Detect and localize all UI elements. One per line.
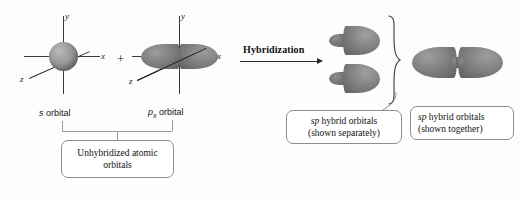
sp-separate-box-text: hybrid orbitals	[319, 116, 377, 126]
plus-operator: +	[117, 52, 124, 65]
sp-orbital-2-large-lobe	[343, 64, 380, 93]
px-orbital-label-text: orbital	[157, 107, 184, 117]
unhybridized-box-line1: Unhybridized atomic	[68, 147, 167, 159]
hybridization-arrow-shaft	[240, 61, 318, 62]
s-orbital-diagram: y x z	[16, 12, 112, 96]
sp-together-box-line1: sp hybrid orbitals	[418, 111, 507, 123]
leader-px-vertical	[172, 120, 173, 131]
hybridization-arrow-head	[317, 58, 323, 64]
s-orbital-label: s orbital	[39, 109, 71, 118]
sp-orbital-separate-2	[329, 64, 391, 94]
px-orbital-label: px orbital	[148, 108, 184, 119]
sp-separate-box-line1: sp hybrid orbitals	[293, 115, 395, 127]
hybridization-label: Hybridization	[243, 44, 304, 55]
leader-s-vertical	[62, 121, 63, 131]
s-axis-label-x: x	[101, 52, 105, 61]
leader-box-vertical	[117, 131, 118, 140]
s-axis-label-y: y	[65, 12, 69, 21]
sp-separate-box-symbol: sp	[311, 116, 319, 126]
s-axis-label-z: z	[20, 75, 24, 84]
orbital-hybridization-figure: y x z s orbital + y x z px orbital Un	[0, 0, 523, 203]
sp-orbitals-together	[412, 44, 506, 82]
sp-orbital-separate-1	[329, 26, 391, 56]
px-axis-label-z: z	[129, 77, 133, 86]
sp-together-box-text: hybrid orbitals	[426, 112, 484, 122]
sp-together-box-line2: (shown together)	[418, 123, 507, 135]
px-axis-label-x: x	[217, 52, 221, 61]
sp-separate-box: sp hybrid orbitals (shown separately)	[286, 110, 402, 144]
px-orbital-lobe-left	[141, 44, 180, 69]
s-orbital-label-text: orbital	[44, 108, 71, 118]
unhybridized-orbitals-box: Unhybridized atomic orbitals	[61, 140, 174, 178]
px-axis-label-y: y	[181, 12, 185, 21]
sp-together-box: sp hybrid orbitals (shown together)	[410, 106, 514, 140]
px-orbital-diagram: y x z	[128, 12, 232, 96]
sp-orbital-1-large-lobe	[343, 26, 380, 55]
sp-separate-box-line2: (shown separately)	[293, 127, 395, 139]
s-orbital-sphere	[49, 42, 78, 71]
unhybridized-box-line2: orbitals	[68, 159, 167, 171]
